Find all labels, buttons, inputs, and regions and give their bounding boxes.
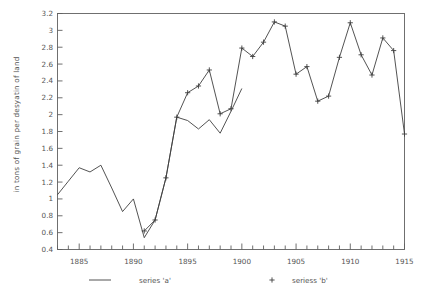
y-axis-tick-label: 2.8 [20, 43, 53, 52]
plot-border [58, 14, 405, 250]
series-line-1 [58, 89, 242, 238]
x-axis-tick-label: 1915 [385, 257, 422, 266]
y-axis-tick-label: 1.4 [20, 161, 53, 170]
legend-entry-label: seriess 'b' [292, 276, 328, 285]
y-axis-tick-label: 1.8 [20, 127, 53, 136]
x-axis-tick-label: 1910 [330, 257, 370, 266]
y-axis-tick-label: 3 [20, 26, 53, 35]
legend-entry-label: series 'a' [139, 276, 171, 285]
y-axis-tick-label: 0.8 [20, 211, 53, 220]
y-axis-tick-label: 1 [20, 194, 53, 203]
y-axis-tick-label: 2.6 [20, 60, 53, 69]
y-axis-tick-label: 0.6 [20, 228, 53, 237]
x-axis-tick-label: 1885 [59, 257, 99, 266]
plot-area [0, 0, 422, 292]
chart-container: in tons of grain per desyatin of land 0.… [0, 0, 422, 292]
y-axis-tick-label: 1.6 [20, 144, 53, 153]
x-axis-tick-label: 1895 [168, 257, 208, 266]
y-axis-tick-label: 2.2 [20, 93, 53, 102]
y-axis-tick-label: 2.4 [20, 76, 53, 85]
x-axis-tick-label: 1905 [276, 257, 316, 266]
x-axis-tick-label: 1890 [113, 257, 153, 266]
y-axis-tick-label: 2 [20, 110, 53, 119]
x-axis-tick-label: 1900 [222, 257, 262, 266]
y-axis-tick-label: 0.4 [20, 245, 53, 254]
series-line-2 [144, 22, 404, 231]
y-axis-tick-label: 1.2 [20, 178, 53, 187]
y-axis-tick-label: 3.2 [20, 9, 53, 18]
